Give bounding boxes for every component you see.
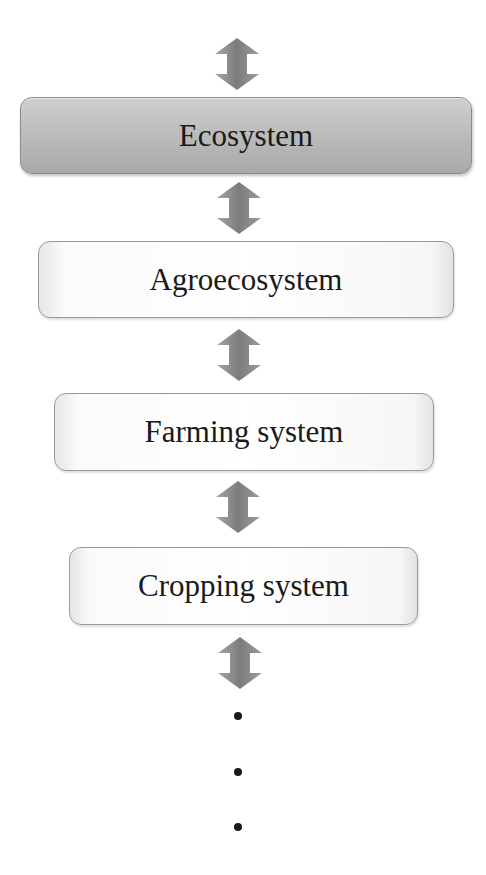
box-label: Farming system <box>145 414 344 450</box>
ellipsis-dot <box>234 823 242 831</box>
box-farming-system: Farming system <box>54 393 434 471</box>
box-label: Agroecosystem <box>150 262 343 298</box>
box-agroecosystem: Agroecosystem <box>38 241 454 318</box>
box-cropping-system: Cropping system <box>69 547 418 625</box>
bidirectional-arrow-icon <box>217 329 261 381</box>
box-ecosystem: Ecosystem <box>20 97 472 174</box>
bidirectional-arrow-icon <box>218 637 262 689</box>
box-label: Cropping system <box>138 568 349 604</box>
bidirectional-arrow-icon <box>215 38 259 90</box>
bidirectional-arrow-icon <box>217 182 261 234</box>
ellipsis-dot <box>234 768 242 776</box>
bidirectional-arrow-icon <box>216 481 260 533</box>
ellipsis-dot <box>234 712 242 720</box>
box-label: Ecosystem <box>179 118 313 154</box>
